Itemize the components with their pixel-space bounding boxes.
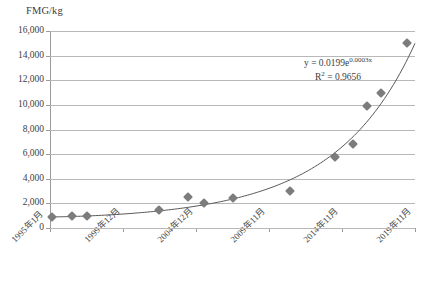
equation-exponent: 0.0003x — [349, 56, 372, 64]
gridline — [50, 228, 415, 229]
equation-text: y = 0.0199e — [304, 58, 349, 68]
y-tick-label: 14,000 — [0, 50, 44, 60]
x-tick-mark — [415, 228, 416, 232]
equation-line: y = 0.0199e0.0003x — [262, 55, 414, 69]
chart-container: FMG/kg 16,00014,00012,00010,0008,0006,00… — [0, 0, 424, 290]
y-tick-label: 8,000 — [0, 124, 44, 134]
y-tick-label: 12,000 — [0, 74, 44, 84]
r-squared-exponent: 2 — [321, 70, 325, 78]
y-tick-label: 6,000 — [0, 148, 44, 158]
trendline-equation: y = 0.0199e0.0003x R2 = 0.9656 — [262, 55, 414, 83]
y-tick-label: 16,000 — [0, 25, 44, 35]
y-tick-label: 4,000 — [0, 173, 44, 183]
y-tick-label: 10,000 — [0, 99, 44, 109]
y-tick-label: 2,000 — [0, 197, 44, 207]
r-squared-value: = 0.9656 — [327, 72, 361, 82]
y-axis-title: FMG/kg — [26, 5, 63, 16]
r-squared-line: R2 = 0.9656 — [262, 69, 414, 83]
